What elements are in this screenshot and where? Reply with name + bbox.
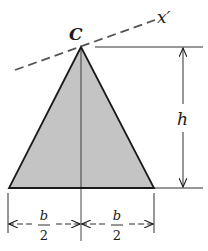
half-base-left-denominator: 2 bbox=[40, 228, 48, 243]
height-label-h: h bbox=[177, 109, 188, 129]
x-prime-axis-label: x′ bbox=[157, 7, 171, 27]
half-base-left-numerator: b bbox=[40, 208, 48, 223]
half-base-right-denominator: 2 bbox=[113, 228, 121, 243]
triangle-shape bbox=[9, 47, 154, 188]
apex-label-c: C bbox=[69, 24, 83, 44]
half-base-right-numerator: b bbox=[113, 208, 121, 223]
triangle-diagram: C x′ h b 2 b 2 bbox=[0, 0, 208, 251]
